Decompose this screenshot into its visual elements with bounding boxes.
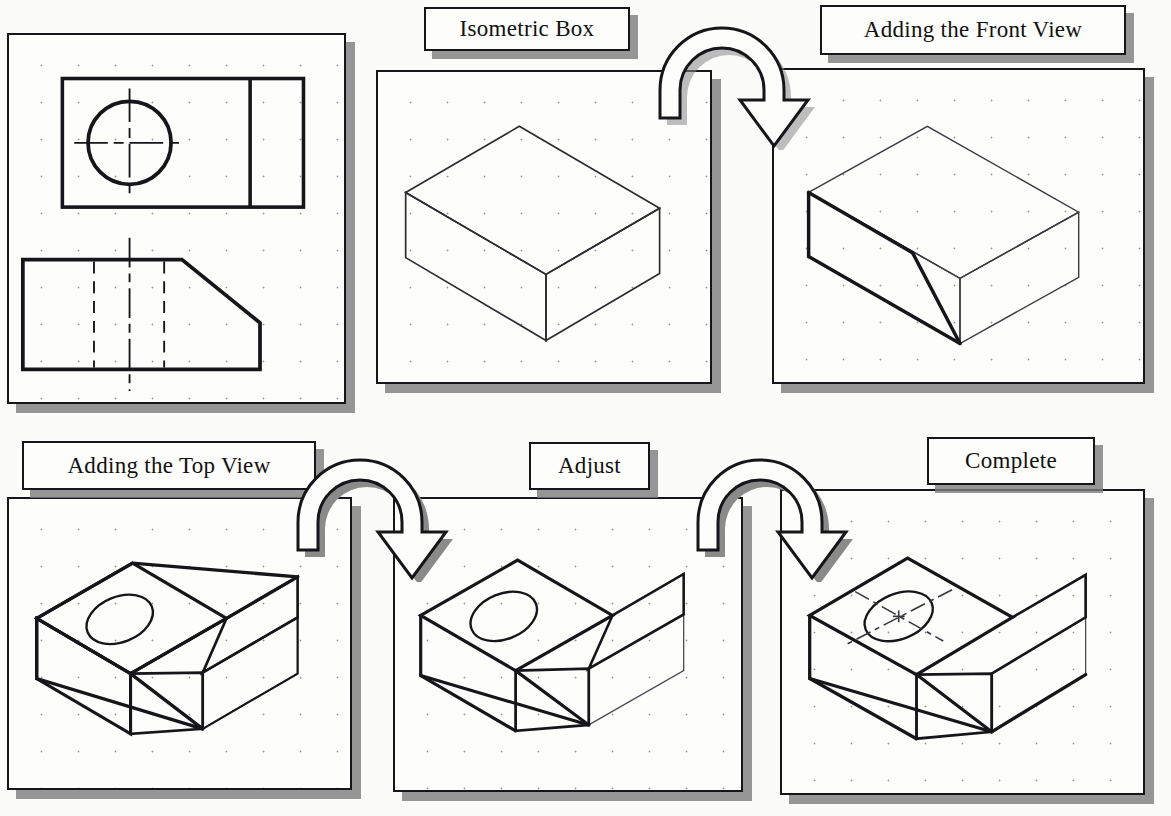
panel-isometric-box [376, 70, 712, 384]
caption-adjust: Adjust [529, 442, 650, 490]
caption-isometric-box: Isometric Box [424, 7, 630, 51]
caption-text: Isometric Box [460, 16, 595, 42]
adjust-drawing [395, 499, 741, 790]
complete-drawing [782, 491, 1143, 793]
top-view-drawing [9, 499, 350, 788]
panel-adjust [393, 497, 743, 792]
caption-text: Adding the Front View [864, 17, 1083, 43]
caption-text: Adjust [558, 453, 621, 479]
isometric-box-drawing [378, 72, 710, 382]
caption-complete: Complete [927, 437, 1095, 485]
orthographic-drawing [9, 35, 344, 402]
caption-text: Adding the Top View [67, 453, 270, 479]
caption-front-view: Adding the Front View [820, 5, 1126, 55]
panel-orthographic-views [7, 33, 346, 404]
panel-top-view [7, 497, 352, 790]
front-view-drawing [774, 70, 1143, 382]
figure-canvas: Isometric Box Adding the Front View Addi… [0, 0, 1171, 816]
caption-top-view: Adding the Top View [22, 441, 316, 490]
panel-front-view [772, 68, 1145, 384]
caption-text: Complete [965, 448, 1057, 474]
panel-complete [780, 489, 1145, 795]
